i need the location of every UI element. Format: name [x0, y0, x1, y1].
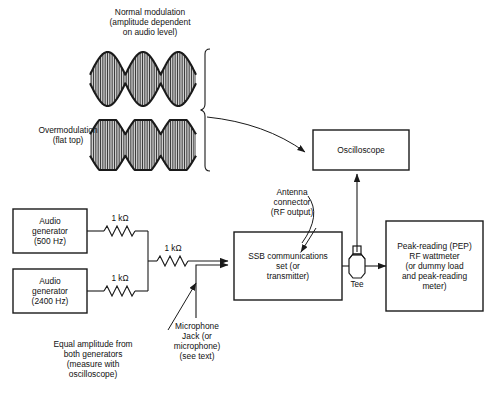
waveform-to-oscilloscope-arrow — [207, 117, 305, 152]
resistor-mid-label: 1 kΩ — [149, 244, 197, 253]
over-caption-line2: (flat top) — [14, 136, 122, 146]
mic-line4: (see text) — [160, 352, 234, 362]
normal-modulation-waveform — [90, 50, 196, 108]
ssb-line1: SSB communications — [248, 251, 328, 261]
waveform-brace — [201, 49, 211, 171]
ssb-line3: transmitter) — [248, 271, 328, 281]
ag1-line2: generator — [32, 226, 68, 236]
resistor-top-network — [87, 226, 148, 236]
resistor-top-label: 1 kΩ — [96, 214, 144, 223]
resistor-bottom-label: 1 kΩ — [96, 274, 144, 283]
ssb-line2: set (or — [248, 261, 328, 271]
antenna-connector-annotation: Antenna connector (RF output) — [256, 188, 328, 218]
overmodulation-caption: Overmodulation (flat top) — [14, 126, 122, 146]
audio-generator-2400hz-label: Audio generator (2400 Hz) — [13, 269, 87, 313]
diagram-canvas — [0, 0, 500, 394]
normal-caption-line3: on audio level) — [88, 28, 212, 38]
antenna-line3: (RF output) — [256, 208, 328, 218]
resistor-bottom-network — [87, 286, 148, 296]
microphone-jack-feed — [196, 265, 228, 318]
wm-line4: and peak-reading — [397, 271, 471, 281]
wm-line3: (or dummy load — [397, 261, 471, 271]
equal-amplitude-annotation: Equal amplitude from both generators (me… — [22, 340, 164, 380]
wm-line1: Peak-reading (PEP) — [397, 241, 471, 251]
ag2-line1: Audio — [32, 276, 69, 286]
audio-generator-500hz-label: Audio generator (500 Hz) — [13, 209, 87, 253]
wm-line5: meter) — [397, 281, 471, 291]
ssb-set-label: SSB communications set (or transmitter) — [234, 232, 342, 300]
wattmeter-label: Peak-reading (PEP) RF wattmeter (or dumm… — [386, 221, 483, 311]
normal-modulation-caption: Normal modulation (amplitude dependent o… — [88, 8, 212, 38]
oscilloscope-label-text: Oscilloscope — [337, 145, 384, 155]
summing-bus — [148, 231, 157, 291]
ag2-line3: (2400 Hz) — [32, 296, 69, 306]
ag1-line3: (500 Hz) — [32, 236, 68, 246]
ag2-line2: generator — [32, 286, 69, 296]
microphone-jack-annotation: Microphone Jack (or microphone) (see tex… — [160, 322, 234, 362]
oscilloscope-label: Oscilloscope — [313, 130, 409, 170]
tee-label: Tee — [341, 280, 373, 289]
wm-line2: RF wattmeter — [397, 251, 471, 261]
ag1-line1: Audio — [32, 216, 68, 226]
eq-line4: oscilloscope) — [22, 370, 164, 380]
